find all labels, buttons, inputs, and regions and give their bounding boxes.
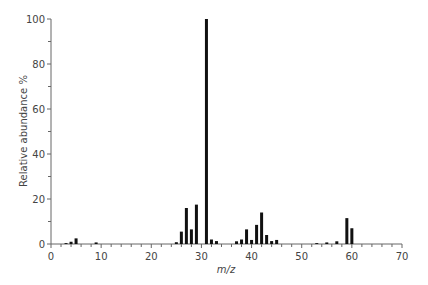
y-tick-label: 80: [32, 59, 45, 70]
peak-bar: [265, 235, 268, 244]
y-axis: 020406080100: [26, 14, 51, 250]
peak-bar: [215, 241, 218, 244]
peak-bar: [255, 225, 258, 244]
peak-bar: [250, 240, 253, 244]
peak-bar: [270, 241, 273, 244]
peak-bar: [65, 243, 68, 244]
peak-bar: [195, 205, 198, 244]
peak-bar: [315, 243, 318, 244]
x-tick-label: 60: [345, 251, 358, 262]
peak-bar: [350, 228, 353, 244]
peak-bar: [185, 208, 188, 244]
y-axis-title: Relative abundance %: [18, 75, 29, 187]
y-tick-label: 40: [32, 149, 45, 160]
peak-bar: [240, 240, 243, 245]
x-tick-label: 70: [396, 251, 409, 262]
x-axis: 010203040506070: [48, 244, 409, 262]
mass-spectrum-chart: 020406080100 010203040506070 m/z Relativ…: [0, 0, 428, 285]
x-tick-label: 50: [295, 251, 308, 262]
peak-bar: [275, 240, 278, 244]
y-tick-label: 20: [32, 194, 45, 205]
x-tick-label: 30: [195, 251, 208, 262]
peak-bar: [175, 242, 178, 244]
y-tick-label: 60: [32, 104, 45, 115]
peak-bar: [325, 242, 328, 244]
peak-bar: [190, 229, 193, 244]
peak-bar: [210, 240, 213, 245]
peak-bar: [180, 232, 183, 244]
x-tick-label: 20: [145, 251, 158, 262]
peak-bar: [235, 241, 238, 244]
peak-bar: [205, 19, 208, 244]
x-tick-label: 10: [95, 251, 108, 262]
peak-bar: [335, 241, 338, 244]
peak-bar: [70, 242, 73, 244]
peak-bar: [75, 238, 78, 244]
x-tick-label: 0: [48, 251, 54, 262]
peak-bar: [245, 229, 248, 244]
peak-bar: [95, 242, 98, 244]
peak-bar: [260, 213, 263, 245]
y-tick-label: 100: [26, 14, 45, 25]
peak-bar: [345, 218, 348, 244]
peak-bars: [65, 19, 354, 244]
x-tick-label: 40: [245, 251, 258, 262]
y-tick-label: 0: [39, 239, 45, 250]
x-axis-title: m/z: [217, 264, 236, 275]
